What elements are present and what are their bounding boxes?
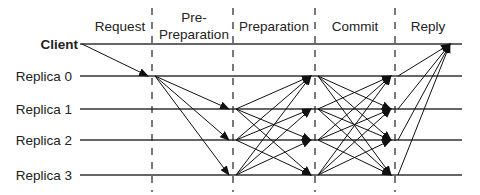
message-preparation-replica3-to-replica0	[236, 76, 311, 175]
message-preparation-replica1-to-replica0	[236, 76, 311, 109]
node-labels: Client Replica 0 Replica 1 Replica 2 Rep…	[16, 37, 79, 183]
phase-labels: Request Pre- Preparation Preparation Com…	[95, 10, 446, 42]
phase-label-request: Request	[95, 19, 146, 34]
node-label-client: Client	[40, 37, 78, 52]
message-preparation-replica2-to-replica0	[236, 76, 311, 140]
node-label-replica3: Replica 3	[16, 168, 72, 183]
node-label-replica2: Replica 2	[16, 133, 72, 148]
message-reply-replica0-to-client	[398, 44, 450, 76]
phase-label-preparation: Preparation	[239, 19, 309, 34]
pbft-diagram: Request Pre- Preparation Preparation Com…	[0, 0, 480, 195]
phase-label-commit: Commit	[332, 19, 379, 34]
node-label-replica1: Replica 1	[16, 102, 72, 117]
phase-label-pre-preparation-line2: Preparation	[159, 27, 229, 42]
phase-label-pre-preparation-line1: Pre-	[181, 10, 207, 25]
message-pre-preparation-replica0-to-replica2	[155, 76, 229, 140]
message-reply-replica2-to-client	[398, 44, 450, 140]
node-label-replica0: Replica 0	[16, 69, 72, 84]
phase-label-reply: Reply	[411, 19, 446, 34]
message-request-client-to-replica0	[82, 44, 148, 76]
message-pre-preparation-replica0-to-replica3	[155, 76, 229, 175]
message-pre-preparation-replica0-to-replica1	[155, 76, 229, 109]
